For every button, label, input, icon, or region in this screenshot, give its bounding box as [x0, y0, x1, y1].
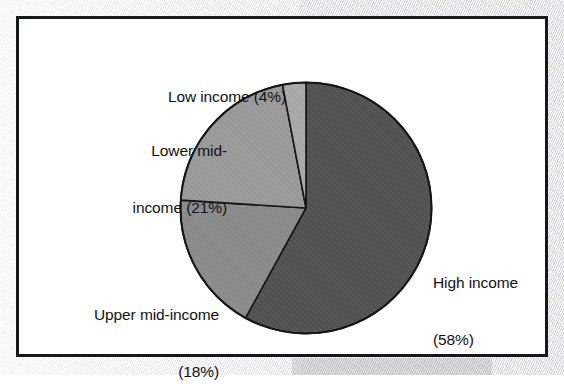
slice-label-high-income-line2: (58%): [433, 330, 563, 349]
slice-label-upper-mid-income-line2: (18%): [27, 362, 219, 381]
slice-label-high-income-line1: High income: [433, 273, 563, 292]
slice-label-upper-mid-income: Upper mid-income (18%): [27, 267, 219, 384]
slice-label-lower-mid-income-line1: Lower mid-: [61, 141, 227, 160]
figure-frame: Low income (4%) Lower mid- income (21%) …: [16, 16, 548, 357]
slice-label-upper-mid-income-line1: Upper mid-income: [27, 305, 219, 324]
slice-label-high-income: High income (58%): [433, 235, 563, 384]
pie-chart: Low income (4%) Lower mid- income (21%) …: [19, 19, 545, 354]
slice-label-lower-mid-income-line2: income (21%): [61, 198, 227, 217]
slice-label-lower-mid-income: Lower mid- income (21%): [61, 103, 227, 255]
